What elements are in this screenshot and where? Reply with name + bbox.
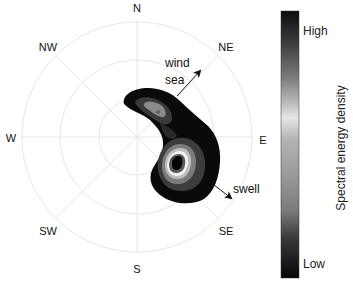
label-s: S bbox=[133, 263, 140, 275]
label-sea: sea bbox=[165, 73, 185, 87]
polar-grid bbox=[22, 22, 252, 252]
label-wind: wind bbox=[164, 56, 190, 70]
swell-arrow-icon bbox=[214, 185, 231, 198]
label-e: E bbox=[259, 134, 266, 146]
label-nw: NW bbox=[39, 41, 58, 53]
colorbar: High Low Spectral energy density bbox=[281, 11, 348, 278]
label-n: N bbox=[133, 2, 141, 14]
colorbar-gradient bbox=[281, 11, 299, 278]
label-sw: SW bbox=[39, 225, 57, 237]
label-swell: swell bbox=[233, 182, 260, 196]
direction-labels: N NE E SE S SW W NW bbox=[6, 2, 267, 275]
colorbar-high-label: High bbox=[303, 24, 328, 38]
spectrum-contours bbox=[124, 88, 220, 203]
polar-spectrum-chart: N NE E SE S SW W NW wind sea swell H bbox=[0, 0, 353, 283]
colorbar-title: Spectral energy density bbox=[334, 85, 348, 210]
label-ne: NE bbox=[218, 41, 233, 53]
label-w: W bbox=[6, 132, 17, 144]
colorbar-low-label: Low bbox=[303, 257, 325, 271]
label-se: SE bbox=[219, 225, 234, 237]
